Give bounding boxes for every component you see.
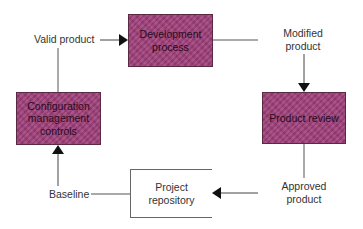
arrowhead-up-icon <box>52 145 64 154</box>
edge-label-approved-product: Approved product <box>262 180 346 205</box>
arrowhead-right-icon <box>119 34 128 46</box>
edge-label-modified-product: Modified product <box>262 27 344 52</box>
node-product-review: Product review <box>262 92 346 144</box>
edge-label-baseline: Baseline <box>49 188 89 201</box>
node-product-review-label: Product review <box>269 112 338 125</box>
edge-label-valid-product: Valid product <box>34 33 95 46</box>
diagram-canvas: Development process Product review Proje… <box>0 0 363 229</box>
node-project-repository-label: Project repository <box>148 181 194 206</box>
node-project-repository: Project repository <box>130 169 212 218</box>
arrowhead-down-icon <box>298 83 310 92</box>
node-configuration-management-controls: Configuration management controls <box>16 92 101 145</box>
arrowhead-left-icon <box>212 187 221 199</box>
node-development-process: Development process <box>128 14 213 67</box>
node-configuration-management-controls-label: Configuration management controls <box>27 100 89 138</box>
node-development-process-label: Development process <box>140 28 202 53</box>
